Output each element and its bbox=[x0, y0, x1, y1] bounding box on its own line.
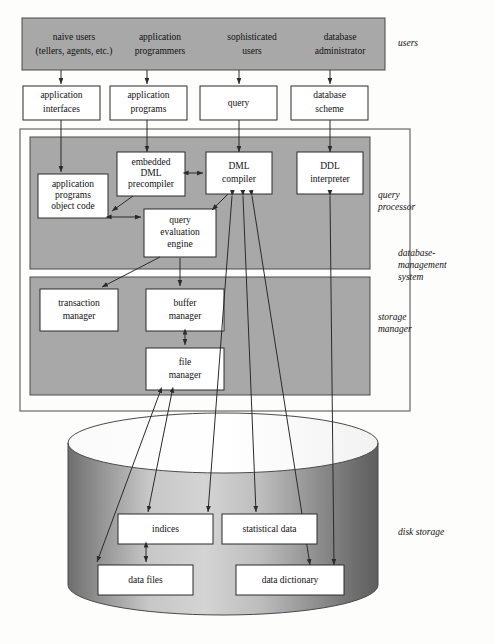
box-ddl-interpreter-line1: DDL bbox=[320, 161, 340, 171]
box-transaction-manager[interactable] bbox=[40, 289, 118, 331]
architecture-svg-canvas: naive users (tellers, agents, etc.) appl… bbox=[0, 0, 495, 644]
box-query-label: query bbox=[228, 98, 250, 108]
region-label-users: users bbox=[398, 38, 418, 48]
box-dml-compiler[interactable] bbox=[206, 152, 272, 194]
box-ddl-interpreter[interactable] bbox=[297, 152, 363, 194]
box-data-dictionary-label: data dictionary bbox=[262, 575, 319, 585]
region-label-disk-storage: disk storage bbox=[398, 527, 444, 537]
box-file-manager-line2: manager bbox=[169, 370, 203, 380]
region-label-query-processor-line1: query bbox=[378, 190, 400, 200]
box-database-scheme-line1: database bbox=[313, 90, 346, 100]
box-qee-line3: engine bbox=[167, 239, 192, 249]
cylinder-top-ellipse bbox=[68, 413, 378, 473]
box-object-code-line2: programs bbox=[55, 190, 91, 200]
user-role-appprog-line1: application bbox=[139, 32, 181, 42]
user-role-dba-line1: database bbox=[324, 32, 357, 42]
region-label-dbms-line2: management bbox=[398, 260, 447, 270]
region-label-storage-manager-line1: storage bbox=[378, 312, 407, 322]
box-qee-line1: query bbox=[169, 215, 191, 225]
box-application-programs-line2: programs bbox=[131, 104, 167, 114]
box-object-code-line1: application bbox=[52, 179, 94, 189]
region-label-dbms-line1: database- bbox=[398, 248, 435, 258]
user-role-naive-line2: (tellers, agents, etc.) bbox=[36, 46, 113, 57]
users-to-interface-arrows bbox=[61, 70, 330, 84]
box-data-files-label: data files bbox=[128, 575, 163, 585]
box-application-interfaces-line2: interfaces bbox=[43, 104, 80, 114]
box-qee-line2: evaluation bbox=[160, 227, 200, 237]
box-database-scheme-line2: scheme bbox=[315, 104, 344, 114]
box-application-interfaces-line1: application bbox=[40, 90, 82, 100]
box-statistical-data-label: statistical data bbox=[242, 524, 297, 534]
box-file-manager[interactable] bbox=[146, 348, 224, 390]
box-dml-compiler-line1: DML bbox=[228, 161, 249, 171]
box-precompiler-line1: embedded bbox=[131, 157, 170, 167]
database-architecture-diagram: naive users (tellers, agents, etc.) appl… bbox=[0, 0, 495, 644]
users-banner-panel bbox=[22, 18, 385, 70]
user-role-naive-line1: naive users bbox=[53, 32, 96, 42]
box-dml-compiler-line2: compiler bbox=[222, 174, 257, 184]
box-transaction-manager-line2: manager bbox=[63, 311, 97, 321]
user-role-appprog-line2: programmers bbox=[135, 46, 186, 56]
region-label-storage-manager-line2: manager bbox=[378, 324, 412, 334]
box-transaction-manager-line1: transaction bbox=[58, 298, 100, 308]
box-ddl-interpreter-line2: interpreter bbox=[310, 174, 350, 184]
region-label-dbms-line3: system bbox=[398, 272, 423, 282]
box-precompiler-line2: DML bbox=[140, 168, 161, 178]
box-buffer-manager-line2: manager bbox=[169, 311, 203, 321]
user-role-dba-line2: administrator bbox=[315, 46, 366, 56]
box-application-programs-line1: application bbox=[127, 90, 169, 100]
user-role-sophisticated-line2: users bbox=[242, 46, 262, 56]
box-file-manager-line1: file bbox=[179, 357, 192, 367]
box-precompiler-line3: precompiler bbox=[128, 179, 175, 189]
region-label-query-processor-line2: processor bbox=[377, 202, 415, 212]
box-buffer-manager[interactable] bbox=[146, 289, 224, 331]
user-role-sophisticated-line1: sophisticated bbox=[227, 32, 277, 42]
box-indices-label: indices bbox=[152, 524, 179, 534]
interface-row: application interfaces application progr… bbox=[23, 86, 368, 120]
box-object-code-line3: object code bbox=[51, 201, 95, 211]
box-buffer-manager-line1: buffer bbox=[173, 298, 197, 308]
users-banner: naive users (tellers, agents, etc.) appl… bbox=[22, 18, 385, 70]
